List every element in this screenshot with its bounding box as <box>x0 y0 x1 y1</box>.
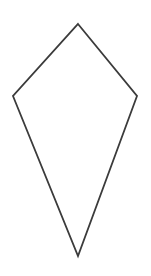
shape-diagram-svg <box>0 0 151 276</box>
kite-shape <box>13 24 137 256</box>
figure-canvas <box>0 0 151 276</box>
